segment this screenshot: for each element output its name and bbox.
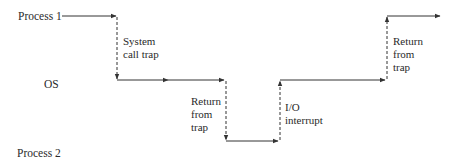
note-return-from-trap-1: Return from trap: [191, 95, 221, 134]
timeline-diagram: [0, 0, 452, 164]
note-return-from-trap-2: Return from trap: [393, 35, 423, 74]
lane-label-process1: Process 1: [18, 10, 62, 23]
note-system-call-trap: System call trap: [123, 35, 159, 61]
lane-label-process2: Process 2: [17, 147, 61, 160]
lane-label-os: OS: [44, 78, 59, 91]
note-io-interrupt: I/O interrupt: [285, 101, 323, 127]
